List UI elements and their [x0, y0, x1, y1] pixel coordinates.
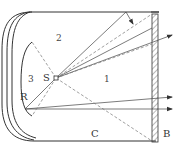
ray-r-exit-upper	[25, 97, 172, 109]
label-zone-3: 3	[28, 74, 34, 84]
dashed-s-to-screen-corner	[56, 14, 152, 78]
label-zone-2: 2	[56, 33, 62, 43]
solid-rays	[25, 12, 172, 109]
dashed-rays	[32, 14, 152, 141]
ray-diagram: S R B C 1 2 3	[0, 0, 182, 144]
ray-s-upper	[56, 28, 152, 78]
label-zone-1: 1	[104, 74, 110, 84]
screen-panel	[151, 12, 159, 142]
housing	[2, 12, 159, 141]
source-marker	[54, 76, 58, 80]
label-screen: B	[163, 128, 170, 139]
label-source: S	[43, 72, 50, 83]
dashed-s-mid	[56, 44, 152, 78]
ray-s-to-top	[56, 12, 126, 78]
ray-reflected-top	[126, 12, 133, 24]
label-reflector: R	[20, 91, 28, 102]
label-region-c: C	[91, 128, 99, 139]
dashed-s-to-bottom-corner	[56, 78, 152, 141]
dashed-s-to-reflector-bottom	[32, 78, 56, 116]
